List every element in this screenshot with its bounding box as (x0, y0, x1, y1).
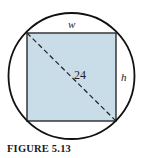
height-label: h (121, 71, 127, 83)
inscribed-rectangle-diagram: w h 24 (0, 0, 146, 158)
diagonal-length-label: 24 (74, 68, 86, 82)
width-label: w (68, 18, 76, 30)
figure-caption: FIGURE 5.13 (7, 143, 71, 154)
